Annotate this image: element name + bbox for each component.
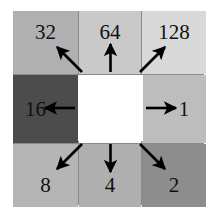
grid-cell-16: 16 <box>13 75 78 143</box>
grid-cell-128: 128 <box>142 11 206 74</box>
cell-label-128: 128 <box>158 22 190 43</box>
grid-cell-4: 4 <box>79 144 141 207</box>
lbp-weight-diagram: 32 64 128 16 1 8 4 2 <box>0 0 217 218</box>
cell-label-64: 64 <box>100 22 121 43</box>
grid-cell-1: 1 <box>142 75 206 143</box>
grid-cell-8: 8 <box>13 144 78 207</box>
cell-label-4: 4 <box>105 175 116 196</box>
cell-label-16: 16 <box>25 99 46 120</box>
cell-label-1: 1 <box>179 99 190 120</box>
cell-label-32: 32 <box>35 22 56 43</box>
cell-label-2: 2 <box>169 175 180 196</box>
center-pixel-patch <box>78 75 143 141</box>
cell-label-8: 8 <box>40 175 51 196</box>
grid-cell-64: 64 <box>79 11 141 74</box>
grid-cell-2: 2 <box>142 144 206 207</box>
grid-cell-32: 32 <box>13 11 78 74</box>
